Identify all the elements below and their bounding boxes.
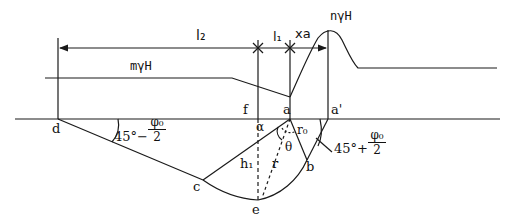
left-angle-fraction: φ₀ 2 <box>148 116 166 143</box>
r-label: r <box>272 157 278 170</box>
r0-label: r₀ <box>297 124 308 136</box>
l1-label: l₁ <box>273 30 282 43</box>
alpha-label: α <box>256 121 264 133</box>
alpha-arc <box>277 127 282 140</box>
failure-arc-eb <box>258 160 307 200</box>
point-b: b <box>306 160 314 173</box>
right-angle-prefix: 45°+ <box>334 142 368 155</box>
right-surcharge-bulge <box>290 31 497 97</box>
theta-label: θ <box>285 141 292 153</box>
left-angle-prefix: 45°− <box>114 130 148 143</box>
h1-label: h₁ <box>240 157 254 170</box>
left-surcharge-label: mγH <box>130 60 152 72</box>
left-surcharge-line <box>45 78 290 97</box>
right-angle-fraction: φ₀ 2 <box>368 129 386 156</box>
diagram-lines <box>0 0 508 224</box>
diagram-canvas: l₂ l₁ xa mγH nγH d f a a' b c e α θ r₀ h… <box>0 0 508 224</box>
point-d: d <box>52 122 60 135</box>
right-surcharge-label: nγH <box>330 10 352 22</box>
xa-label: xa <box>295 27 311 40</box>
failure-arc-ce <box>203 180 258 200</box>
point-a: a <box>283 103 291 116</box>
point-f: f <box>243 103 248 116</box>
l2-label: l₂ <box>196 28 206 42</box>
point-a-prime: a' <box>331 103 342 116</box>
point-e: e <box>252 203 260 216</box>
point-c: c <box>193 180 200 193</box>
